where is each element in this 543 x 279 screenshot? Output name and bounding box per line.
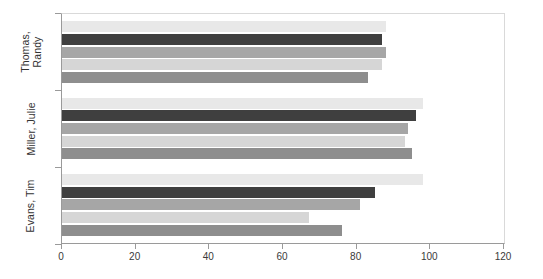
y-axis-label-line-2: Randy xyxy=(30,36,42,67)
y-axis-label-evans-tim: Evans, Tim xyxy=(0,167,61,244)
bar xyxy=(62,199,360,210)
y-axis-label-thomas-randy: Thomas,Randy xyxy=(0,13,61,90)
bar xyxy=(62,136,405,147)
bar xyxy=(62,21,386,32)
bar xyxy=(62,148,412,159)
x-axis-tick-label: 120 xyxy=(495,251,512,262)
y-axis-label-miller-julie: Miller, Julie xyxy=(0,90,61,167)
x-axis: 020406080100120 xyxy=(61,244,505,274)
bar xyxy=(62,98,423,109)
x-axis-tick xyxy=(208,244,209,249)
x-axis-tick xyxy=(282,244,283,249)
x-axis-tick xyxy=(356,244,357,249)
bar xyxy=(62,59,382,70)
bar xyxy=(62,47,386,58)
y-axis-label-line-1: Thomas, xyxy=(18,31,30,73)
bar xyxy=(62,225,342,236)
x-axis-tick xyxy=(135,244,136,249)
x-axis-tick xyxy=(503,244,504,249)
bar-group xyxy=(62,14,506,90)
x-axis-tick xyxy=(429,244,430,249)
bar-chart: Thomas,Randy Miller, Julie Evans, Tim 02… xyxy=(0,0,543,279)
x-axis-tick-label: 20 xyxy=(129,251,140,262)
y-axis-label-line-1: Evans, Tim xyxy=(25,179,37,232)
bar-group xyxy=(62,90,506,166)
x-axis-tick-label: 60 xyxy=(276,251,287,262)
bar xyxy=(62,34,382,45)
x-axis-tick-label: 0 xyxy=(58,251,64,262)
y-axis-category-labels: Thomas,Randy Miller, Julie Evans, Tim xyxy=(0,13,61,244)
bar xyxy=(62,72,368,83)
bar xyxy=(62,123,408,134)
bar xyxy=(62,187,375,198)
bar xyxy=(62,174,423,185)
x-axis-tick-label: 40 xyxy=(203,251,214,262)
bar xyxy=(62,110,416,121)
y-axis-label-line-1: Miller, Julie xyxy=(24,102,36,155)
x-axis-tick-label: 100 xyxy=(421,251,438,262)
x-axis-tick-label: 80 xyxy=(350,251,361,262)
plot-area xyxy=(61,13,505,244)
bar-group xyxy=(62,167,506,243)
bar xyxy=(62,212,309,223)
x-axis-tick xyxy=(61,244,62,249)
